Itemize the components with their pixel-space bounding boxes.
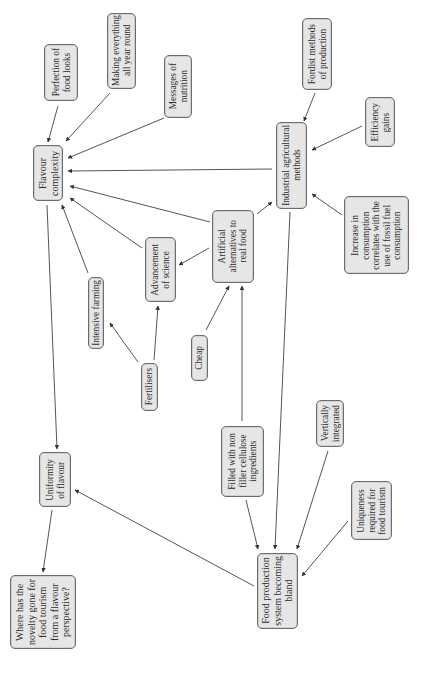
node-uniqueness-for-food-tourism: Uniqueness required for food tourism xyxy=(351,481,392,540)
node-efficiency-gains: Efficiency gains xyxy=(365,97,395,147)
node-label: Filled with non filler cellulose ingredi… xyxy=(227,433,259,490)
node-label: Industrial agricultural methods xyxy=(281,125,302,206)
edge-fertilisers-to-science xyxy=(154,306,158,360)
node-fertilisers: Fertilisers xyxy=(141,363,158,411)
node-label: Food production system becoming bland xyxy=(260,556,295,626)
node-flavour-complexity: Flavour complexity xyxy=(33,145,63,201)
node-label: Uniformity of flavour xyxy=(45,459,66,501)
edge-uniqueness-to-bland xyxy=(302,521,348,576)
node-label: Perfection of food looks xyxy=(51,48,72,96)
node-label: Increase in consumption correlates with … xyxy=(350,201,403,270)
edge-fordist-to-industrial xyxy=(304,93,315,121)
edge-industrial-to-flavour xyxy=(68,169,272,171)
node-advancement-of-science: Advancement of science xyxy=(145,237,176,302)
node-artificial-alternatives: Artificial alternatives to real food xyxy=(212,210,254,283)
node-label: Vertically integrated xyxy=(320,405,341,442)
node-label: Intensive farming xyxy=(91,280,102,346)
node-vertically-integrated: Vertically integrated xyxy=(316,400,344,447)
node-industrial-agricultural-methods: Industrial agricultural methods xyxy=(276,122,307,209)
edge-industrial-to-bland xyxy=(275,212,290,549)
concept-map-diagram: Perfection of food looks Making everythi… xyxy=(0,0,425,673)
node-label: Messages of nutrition xyxy=(168,63,189,109)
edge-artificial-to-science xyxy=(179,248,209,265)
edge-cheap-to-artificial xyxy=(206,286,229,330)
edge-vertical-to-bland xyxy=(297,451,328,549)
node-where-has-novelty-gone: Where has the novelty gone for food tour… xyxy=(10,575,76,649)
node-perfection-of-food-looks: Perfection of food looks xyxy=(44,44,78,101)
node-label: Artificial alternatives to real food xyxy=(217,220,249,272)
node-label: Efficiency gains xyxy=(370,103,391,142)
node-increase-in-consumption: Increase in consumption correlates with … xyxy=(344,196,409,274)
node-filled-with-non-filler-cellulose: Filled with non filler cellulose ingredi… xyxy=(221,426,264,497)
edge-efficiency-to-industrial xyxy=(312,126,362,150)
edge-uniformity-to-novelty xyxy=(43,510,52,572)
node-label: Flavour complexity xyxy=(37,151,60,196)
edge-consumption-to-industrial xyxy=(312,194,342,215)
edge-bland-to-uniformity xyxy=(75,490,254,586)
edge-intensive-to-flavour xyxy=(62,205,88,273)
edge-filled-to-bland xyxy=(246,500,258,549)
edge-artificial-to-flavour xyxy=(70,186,210,222)
node-cheap: Cheap xyxy=(191,335,208,381)
edge-flavour-to-uniformity xyxy=(47,205,57,449)
node-fordist-methods: Fordist methods of production xyxy=(302,18,332,90)
node-label: Cheap xyxy=(194,346,205,370)
node-label: Advancement of science xyxy=(150,244,171,296)
edge-science-to-flavour xyxy=(70,198,142,248)
node-messages-of-nutrition: Messages of nutrition xyxy=(164,55,192,118)
node-label: Where has the novelty gone for food tour… xyxy=(14,579,72,645)
edge-perfection-to-flavour xyxy=(48,106,58,142)
node-label: Fertilisers xyxy=(144,368,155,405)
node-making-everything-all-year-round: Making everything all year round xyxy=(107,13,136,89)
node-label: Making everything all year round xyxy=(111,15,132,86)
node-label: Uniqueness required for food tourism xyxy=(356,487,388,535)
edge-nutrition-to-flavour xyxy=(68,118,164,158)
node-uniformity-of-flavour: Uniformity of flavour xyxy=(39,452,71,507)
edge-fertilisers-to-intensive xyxy=(110,323,138,362)
node-food-production-bland: Food production system becoming bland xyxy=(257,553,298,629)
node-label: Fordist methods of production xyxy=(307,24,328,84)
node-intensive-farming: Intensive farming xyxy=(88,277,104,349)
edge-artificial-to-industrial xyxy=(257,202,272,214)
